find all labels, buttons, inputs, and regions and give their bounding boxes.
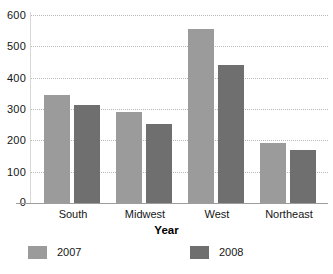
bar-northeast-2007 xyxy=(260,143,286,203)
bar-group-west xyxy=(188,15,244,203)
x-tick-label-midwest: Midwest xyxy=(105,208,185,221)
chart-legend: 2007 2008 xyxy=(0,246,333,268)
bar-series-container xyxy=(30,15,328,203)
legend-item-2007: 2007 xyxy=(28,246,81,259)
y-tick-label-200: 200 xyxy=(0,135,26,146)
bar-midwest-2008 xyxy=(146,124,172,203)
x-tick-label-west: West xyxy=(177,208,257,221)
bar-midwest-2007 xyxy=(116,112,142,204)
y-tick-label-100: 100 xyxy=(0,167,26,178)
y-tick-label-400: 400 xyxy=(0,73,26,84)
x-axis-line xyxy=(16,203,328,204)
bar-west-2007 xyxy=(188,29,214,203)
bar-west-2008 xyxy=(218,65,244,203)
bar-south-2007 xyxy=(44,95,70,203)
bar-northeast-2008 xyxy=(290,150,316,203)
legend-item-2008: 2008 xyxy=(190,246,243,259)
x-axis-title: Year xyxy=(0,224,333,236)
legend-label-2007: 2007 xyxy=(57,246,81,259)
legend-label-2008: 2008 xyxy=(219,246,243,259)
bar-group-midwest xyxy=(116,15,172,203)
legend-swatch-2007 xyxy=(28,246,47,259)
x-axis-labels: South Midwest West Northeast xyxy=(30,208,328,224)
bar-group-south xyxy=(44,15,100,203)
legend-swatch-2008 xyxy=(190,246,209,259)
bar-south-2008 xyxy=(74,105,100,203)
bar-chart: 600 500 400 300 200 100 0 xyxy=(0,0,333,274)
x-tick-label-south: South xyxy=(33,208,113,221)
y-tick-label-600: 600 xyxy=(0,10,26,21)
y-tick-label-500: 500 xyxy=(0,41,26,52)
bar-group-northeast xyxy=(260,15,316,203)
x-tick-label-northeast: Northeast xyxy=(249,208,329,221)
y-tick-label-300: 300 xyxy=(0,104,26,115)
